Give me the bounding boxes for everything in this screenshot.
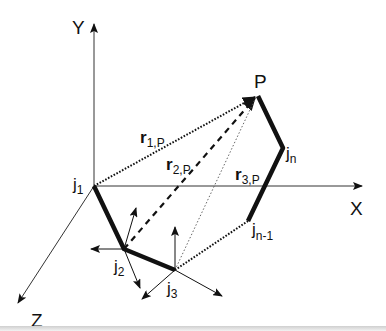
- joint-label-j1: j1: [72, 175, 84, 197]
- chain-links-start: [94, 186, 175, 270]
- vector-label-r2p: r2,P: [166, 155, 191, 177]
- joint-label-jn: jn: [285, 144, 296, 166]
- kinematic-chain-diagram: Y X Z P j1 j2 j3 jn-1 jn r1,P r2,P r3,P: [0, 0, 386, 331]
- chain-links-end: [248, 96, 283, 221]
- chain-gap-dotted: [175, 221, 248, 270]
- point-p-label: P: [254, 71, 267, 92]
- bottom-divider: [0, 326, 386, 331]
- frame-j2: [91, 208, 140, 288]
- joint-label-jn-1: jn-1: [251, 220, 273, 243]
- vector-label-r3p: r3,P: [235, 165, 260, 187]
- joint-label-j3: j3: [166, 279, 178, 301]
- x-axis-label: X: [350, 198, 363, 219]
- joint-label-j2: j2: [113, 257, 125, 279]
- y-axis-label: Y: [72, 17, 85, 38]
- z-axis: [18, 186, 94, 303]
- vector-label-r1p: r1,P: [140, 128, 165, 150]
